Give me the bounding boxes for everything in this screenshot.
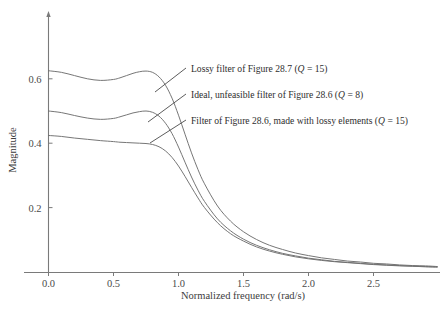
x-tick-label: 1.0 [172, 278, 185, 289]
axes-group [24, 11, 440, 273]
curve-series-0 [49, 71, 438, 267]
magnitude-vs-normalized-frequency-chart: 0.00.51.01.52.02.5 0.20.40.6 Lossy filte… [0, 0, 447, 313]
annot-text-prefix: Filter of Figure 28.6, made with lossy e… [191, 115, 378, 127]
x-tick-label: 1.5 [237, 278, 250, 289]
curve-series-1 [49, 111, 438, 267]
annot-text-suffix: = 15) [385, 115, 408, 127]
x-tick-label: 2.0 [302, 278, 315, 289]
annot-text-prefix: Ideal, unfeasible filter of Figure 28.6 … [191, 89, 338, 101]
y-axis-title: Magnitude [7, 127, 18, 173]
annot-lossy-287-leader-line [155, 68, 186, 92]
annot-text-prefix: Lossy filter of Figure 28.7 ( [191, 63, 298, 75]
annot-ideal-286-leader-line [148, 94, 186, 122]
annot-lossy-elements-leader-line [150, 120, 186, 143]
y-tick-label: 0.4 [28, 138, 42, 149]
figure-container: 0.00.51.01.52.02.5 0.20.40.6 Lossy filte… [0, 0, 447, 313]
annot-lossy-elements-label: Filter of Figure 28.6, made with lossy e… [191, 115, 408, 127]
x-tick-label: 0.0 [42, 278, 55, 289]
y-axis-ticks [49, 79, 53, 208]
data-curves-group [49, 71, 438, 267]
y-axis-arrow-cap [46, 11, 50, 17]
x-axis-tick-labels: 0.00.51.01.52.02.5 [42, 278, 380, 289]
annot-ideal-286-label: Ideal, unfeasible filter of Figure 28.6 … [191, 89, 363, 101]
x-tick-label: 2.5 [367, 278, 380, 289]
x-tick-label: 0.5 [107, 278, 120, 289]
annot-q-symbol: Q [338, 89, 345, 100]
annot-text-suffix: = 15) [305, 63, 328, 75]
annotation-labels-group: Lossy filter of Figure 28.7 (Q = 15)Idea… [191, 63, 408, 127]
annot-lossy-287-label: Lossy filter of Figure 28.7 (Q = 15) [191, 63, 328, 75]
y-axis-tick-labels: 0.20.40.6 [28, 74, 42, 214]
annotation-leader-lines [148, 68, 186, 143]
x-axis-title: Normalized frequency (rad/s) [181, 290, 306, 302]
y-tick-label: 0.2 [28, 203, 41, 214]
curve-series-2 [49, 135, 438, 267]
annot-q-symbol: Q [298, 63, 305, 74]
annot-q-symbol: Q [378, 115, 385, 126]
y-tick-label: 0.6 [28, 74, 41, 85]
annot-text-suffix: = 8) [345, 89, 363, 101]
